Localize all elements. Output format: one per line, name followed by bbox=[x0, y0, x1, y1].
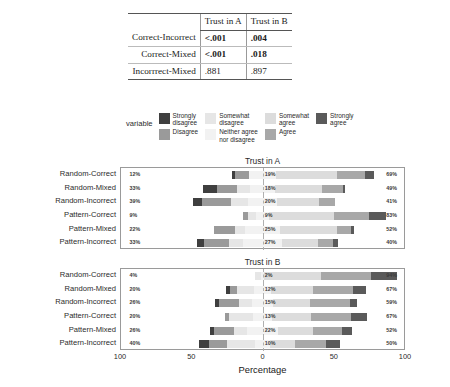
bar-segment[interactable] bbox=[230, 286, 237, 294]
bar-segment[interactable] bbox=[318, 239, 332, 247]
bar-segment[interactable] bbox=[276, 171, 337, 179]
bar-segment[interactable] bbox=[237, 185, 250, 193]
bar-segment[interactable] bbox=[271, 286, 313, 294]
bar-segment[interactable] bbox=[202, 198, 232, 206]
bar-segment[interactable] bbox=[277, 198, 319, 206]
legend-item[interactable]: Somewhat agree bbox=[265, 112, 309, 126]
bar-segment[interactable] bbox=[311, 313, 351, 321]
bar-segment[interactable] bbox=[351, 226, 354, 234]
bar-segment[interactable] bbox=[197, 239, 204, 247]
bar-segment[interactable] bbox=[333, 239, 339, 247]
bar-segment[interactable] bbox=[322, 185, 343, 193]
bar-segment[interactable] bbox=[239, 299, 252, 307]
bar-segment[interactable] bbox=[278, 327, 313, 335]
bar-segment[interactable] bbox=[326, 340, 340, 348]
zero-reference-line bbox=[263, 310, 264, 324]
bar-segment[interactable] bbox=[343, 185, 344, 193]
bar-segment[interactable] bbox=[313, 286, 353, 294]
bar-segment[interactable] bbox=[237, 286, 254, 294]
legend-swatch-icon bbox=[265, 129, 276, 140]
legend-item-label: Somewhat disagree bbox=[219, 112, 249, 126]
bar-segment[interactable] bbox=[337, 226, 351, 234]
neutral-percent-label: 22% bbox=[265, 324, 276, 338]
bar-segment[interactable] bbox=[248, 212, 256, 220]
bar-row[interactable]: 12%19%69% bbox=[121, 168, 404, 182]
zero-reference-line bbox=[263, 337, 264, 351]
legend-swatch-icon bbox=[159, 113, 170, 124]
table-row-label: Correct-Mixed bbox=[128, 47, 200, 64]
bar-segment[interactable] bbox=[214, 327, 234, 335]
bar-segment[interactable] bbox=[273, 299, 310, 307]
bar-row[interactable]: 33%18%49% bbox=[121, 182, 404, 196]
bar-row[interactable]: 26%22%52% bbox=[121, 324, 404, 338]
bar-segment[interactable] bbox=[342, 327, 352, 335]
bar-segments bbox=[121, 182, 404, 196]
table-row: Incorrrect-Mixed .881 .897 bbox=[128, 63, 292, 80]
bar-row-label: Pattern-Correct bbox=[8, 208, 116, 222]
legend-item[interactable]: Somewhat disagree bbox=[205, 112, 258, 126]
bar-segment[interactable] bbox=[319, 198, 335, 206]
bar-segment[interactable] bbox=[234, 327, 247, 335]
bar-segment[interactable] bbox=[310, 299, 350, 307]
bar-segment[interactable] bbox=[275, 185, 322, 193]
bar-row[interactable]: 26%15%59% bbox=[121, 296, 404, 310]
bar-row[interactable]: 33%27%40% bbox=[121, 236, 404, 250]
bar-row-label: Random-Incorrect bbox=[8, 295, 116, 309]
bar-segments bbox=[121, 209, 404, 223]
bar-row[interactable]: 39%20%41% bbox=[121, 195, 404, 209]
bar-segment[interactable] bbox=[334, 212, 369, 220]
zero-reference-line bbox=[263, 182, 264, 196]
bar-segment[interactable] bbox=[351, 313, 367, 321]
legend-item[interactable]: Neither agree nor disagree bbox=[205, 128, 258, 142]
positive-percent-label: 52% bbox=[386, 223, 397, 237]
bar-segment[interactable] bbox=[229, 239, 243, 247]
bar-segment[interactable] bbox=[229, 313, 253, 321]
bar-segment[interactable] bbox=[369, 212, 386, 220]
legend-column: Strongly agree bbox=[316, 112, 353, 143]
bar-segment[interactable] bbox=[199, 340, 209, 348]
bar-segment[interactable] bbox=[321, 272, 372, 280]
neutral-percent-label: 25% bbox=[265, 223, 276, 237]
positive-percent-label: 69% bbox=[386, 168, 397, 182]
pvalue-table: Trust in A Trust in B Correct-Incorrect … bbox=[128, 13, 292, 80]
bar-row[interactable]: 20%13%67% bbox=[121, 310, 404, 324]
negative-percent-label: 9% bbox=[129, 209, 137, 223]
bar-row[interactable]: 20%12%67% bbox=[121, 283, 404, 297]
bar-segment[interactable] bbox=[193, 198, 201, 206]
legend-item[interactable]: Agree bbox=[265, 128, 309, 140]
legend-item[interactable]: Disagree bbox=[159, 128, 199, 140]
positive-percent-label: 52% bbox=[386, 324, 397, 338]
legend-title: variable bbox=[126, 112, 153, 128]
bar-segment[interactable] bbox=[231, 198, 248, 206]
bar-segment[interactable] bbox=[337, 171, 365, 179]
bar-segment[interactable] bbox=[269, 212, 334, 220]
bar-row[interactable]: 40%10%50% bbox=[121, 337, 404, 351]
legend-item[interactable]: Strongly disagree bbox=[159, 112, 199, 126]
bar-segment[interactable] bbox=[280, 226, 337, 234]
bar-segment[interactable] bbox=[219, 299, 239, 307]
panel-title-trust-a: Trust in A bbox=[120, 156, 405, 166]
bar-segment[interactable] bbox=[214, 226, 235, 234]
bar-segment[interactable] bbox=[227, 340, 255, 348]
bar-segment[interactable] bbox=[295, 340, 326, 348]
x-axis-tick-label: 100 bbox=[399, 352, 411, 361]
bar-segment[interactable] bbox=[235, 226, 245, 234]
legend-item[interactable]: Strongly agree bbox=[316, 112, 353, 126]
bar-segment[interactable] bbox=[350, 299, 357, 307]
bar-row[interactable]: 9%9%83% bbox=[121, 209, 404, 223]
bar-segment[interactable] bbox=[353, 286, 366, 294]
bar-rows-trust-b: 4%2%94%20%12%67%26%15%59%20%13%67%26%22%… bbox=[121, 269, 404, 349]
bar-row[interactable]: 22%25%52% bbox=[121, 223, 404, 237]
bar-segment[interactable] bbox=[217, 185, 237, 193]
bar-row[interactable]: 4%2%94% bbox=[121, 269, 404, 283]
neutral-percent-label: 20% bbox=[265, 195, 276, 209]
bar-segment[interactable] bbox=[313, 327, 341, 335]
bar-segment[interactable] bbox=[203, 185, 217, 193]
bar-segment[interactable] bbox=[272, 313, 312, 321]
bar-segment[interactable] bbox=[365, 171, 373, 179]
bar-segment[interactable] bbox=[282, 239, 319, 247]
bar-segment[interactable] bbox=[235, 171, 249, 179]
bar-segment[interactable] bbox=[204, 239, 229, 247]
bar-segment[interactable] bbox=[209, 340, 227, 348]
neutral-percent-label: 10% bbox=[265, 337, 276, 351]
